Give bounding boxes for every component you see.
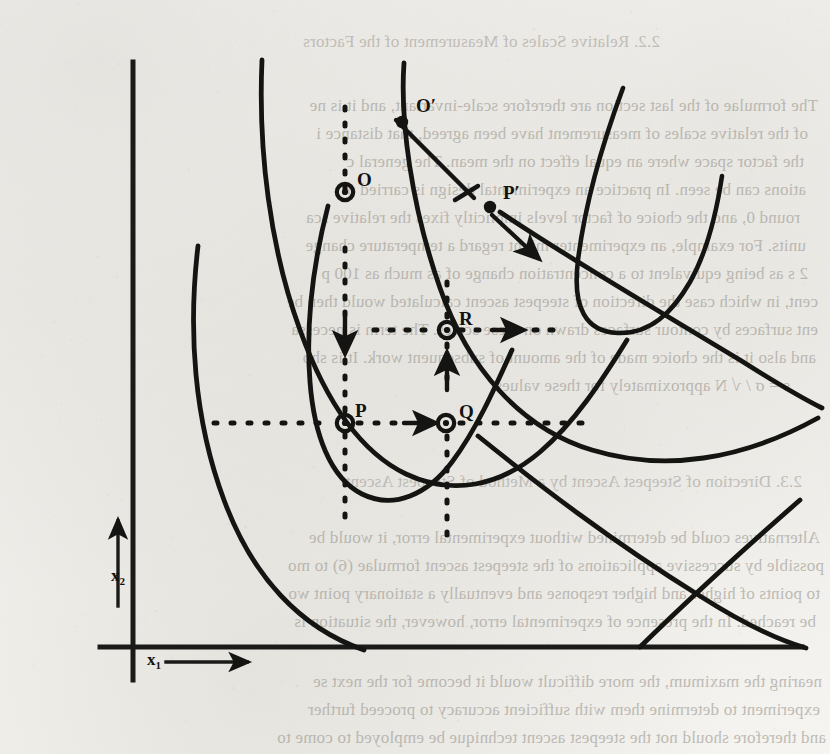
point-label-Pp: P′ [503, 183, 520, 202]
point-markers [337, 116, 496, 431]
contour-5-outer [194, 246, 364, 650]
figure-layer: OO′P′RPQ x2 x1 [0, 0, 830, 754]
point-marker-core-O [342, 189, 348, 195]
y-axis-label-base: x [111, 566, 120, 585]
x-axis-label-sub: 1 [156, 659, 162, 671]
figure-ink [0, 0, 830, 754]
point-label-P: P [355, 401, 367, 420]
contour-lower-right-a [478, 436, 806, 648]
axes-group [100, 62, 802, 680]
point-marker-core-P [342, 420, 348, 426]
contour-curves [194, 60, 822, 650]
point-label-O: O [357, 170, 372, 189]
contour-innermost [577, 88, 722, 333]
contour-right-upper-sweep [500, 212, 822, 408]
point-label-Op: O′ [416, 96, 436, 115]
scanned-page: 2.2. Relative Scales of Measurement of t… [0, 0, 830, 754]
x-axis-label-base: x [147, 650, 156, 669]
point-label-Q: Q [459, 402, 474, 421]
point-marker-dot-Op [396, 116, 408, 128]
point-label-R: R [459, 309, 473, 328]
contour-4-inner-u [309, 206, 512, 500]
y-axis-label-sub: 2 [120, 575, 126, 587]
point-marker-core-Q [443, 420, 449, 426]
point-marker-dot-Pp [484, 201, 496, 213]
x-axis-label: x1 [147, 651, 161, 671]
point-marker-core-R [444, 327, 450, 333]
y-axis-label: x2 [111, 567, 125, 587]
